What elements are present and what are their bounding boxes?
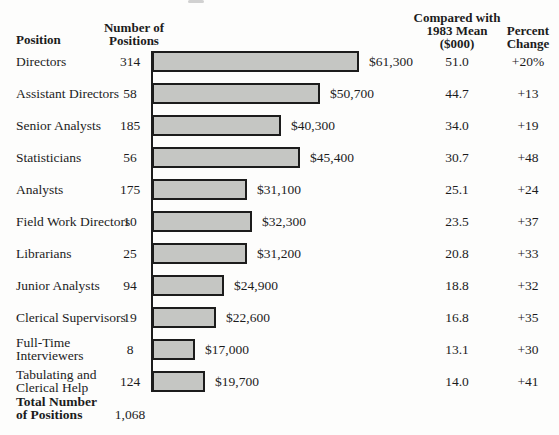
total-positions-label: Total Number of Positions — [16, 395, 97, 421]
positions-count: 175 — [105, 183, 155, 196]
column-header-percent-change: Percent Change — [497, 24, 559, 50]
compared-1983-mean-value: 13.1 — [432, 343, 482, 356]
percent-change-value: +32 — [503, 279, 553, 292]
position-label-line: Librarians — [16, 247, 71, 260]
salary-bar — [152, 339, 195, 360]
positions-count: 10 — [105, 215, 155, 228]
salary-label: $17,000 — [205, 343, 249, 356]
position-label-line: Senior Analysts — [16, 119, 101, 132]
salary-label: $31,200 — [257, 247, 301, 260]
compared-1983-mean-value: 25.1 — [432, 183, 482, 196]
position-label: Senior Analysts — [16, 119, 101, 132]
position-label: Librarians — [16, 247, 71, 260]
position-label: Analysts — [16, 183, 63, 196]
salary-bar-chart: Position Number of Positions Compared wi… — [0, 0, 559, 435]
position-label-line: Assistant Directors — [16, 87, 119, 100]
position-label-line: Interviewers — [16, 349, 83, 362]
header-percent-line2: Change — [497, 37, 559, 50]
salary-label: $19,700 — [215, 375, 259, 388]
salary-bar — [152, 211, 252, 232]
compared-1983-mean-value: 16.8 — [432, 311, 482, 324]
salary-label: $24,900 — [234, 279, 278, 292]
salary-label: $50,700 — [330, 87, 374, 100]
salary-bar — [152, 243, 247, 264]
percent-change-value: +20% — [503, 55, 553, 68]
salary-bar — [152, 275, 224, 296]
salary-bar — [152, 83, 320, 104]
column-header-compared-1983-mean: Compared with 1983 Mean ($000) — [406, 11, 508, 50]
position-label: Directors — [16, 55, 66, 68]
percent-change-value: +41 — [503, 375, 553, 388]
percent-change-value: +48 — [503, 151, 553, 164]
positions-count: 58 — [105, 87, 155, 100]
salary-bar — [152, 307, 216, 328]
salary-label: $22,600 — [226, 311, 270, 324]
salary-bar — [152, 51, 359, 72]
position-label-line: Statisticians — [16, 151, 81, 164]
percent-change-value: +35 — [503, 311, 553, 324]
salary-label: $45,400 — [310, 151, 354, 164]
salary-label: $61,300 — [369, 55, 413, 68]
position-label: Junior Analysts — [16, 279, 100, 292]
percent-change-value: +30 — [503, 343, 553, 356]
positions-count: 124 — [105, 375, 155, 388]
position-label: Assistant Directors — [16, 87, 119, 100]
salary-label: $32,300 — [262, 215, 306, 228]
positions-count: 25 — [105, 247, 155, 260]
compared-1983-mean-value: 14.0 — [432, 375, 482, 388]
position-label: Tabulating andClerical Help — [16, 368, 96, 394]
header-number-line2: Positions — [92, 34, 176, 47]
position-label-line: Junior Analysts — [16, 279, 100, 292]
column-header-position: Position — [16, 33, 61, 46]
positions-count: 94 — [105, 279, 155, 292]
compared-1983-mean-value: 34.0 — [432, 119, 482, 132]
position-label-line: Clerical Help — [16, 381, 96, 394]
position-label-line: Analysts — [16, 183, 63, 196]
percent-change-value: +33 — [503, 247, 553, 260]
positions-count: 56 — [105, 151, 155, 164]
percent-change-value: +19 — [503, 119, 553, 132]
compared-1983-mean-value: 44.7 — [432, 87, 482, 100]
column-header-position-text: Position — [16, 32, 61, 47]
positions-count: 185 — [105, 119, 155, 132]
total-label-line2: of Positions — [16, 408, 97, 421]
salary-bar — [152, 147, 300, 168]
total-positions-value: 1,068 — [105, 408, 155, 421]
salary-bar — [152, 179, 247, 200]
compared-1983-mean-value: 18.8 — [432, 279, 482, 292]
header-compared-line3: ($000) — [406, 37, 508, 50]
compared-1983-mean-value: 30.7 — [432, 151, 482, 164]
positions-count: 8 — [105, 343, 155, 356]
salary-bar — [152, 115, 281, 136]
cropped-title-fragment — [188, 0, 204, 3]
compared-1983-mean-value: 23.5 — [432, 215, 482, 228]
percent-change-value: +13 — [503, 87, 553, 100]
positions-count: 314 — [105, 55, 155, 68]
position-label-line: Directors — [16, 55, 66, 68]
salary-label: $40,300 — [291, 119, 335, 132]
position-label: Statisticians — [16, 151, 81, 164]
compared-1983-mean-value: 20.8 — [432, 247, 482, 260]
percent-change-value: +24 — [503, 183, 553, 196]
positions-count: 19 — [105, 311, 155, 324]
position-label: Full-TimeInterviewers — [16, 336, 83, 362]
salary-bar — [152, 371, 205, 392]
compared-1983-mean-value: 51.0 — [432, 55, 482, 68]
percent-change-value: +37 — [503, 215, 553, 228]
column-header-number-of-positions: Number of Positions — [92, 21, 176, 47]
salary-label: $31,100 — [257, 183, 301, 196]
